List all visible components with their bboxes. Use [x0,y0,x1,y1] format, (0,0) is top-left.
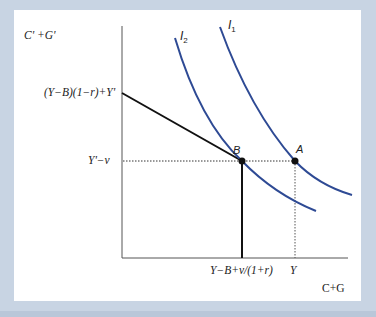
point-a-label: A [296,144,303,155]
y-kink-label: Y'−v [88,155,110,167]
x-endowment-label: Y [290,265,296,277]
point-a-marker [292,158,299,165]
curve-i1-label: I1 [228,19,236,34]
indifference-curve-i1 [220,27,352,195]
budget-line [122,93,242,258]
curve-i2-sub: 2 [183,36,187,45]
curve-i2-label: I2 [180,30,188,45]
y-intercept-label: (Y−B)(1−r)+Y' [44,87,115,99]
x-kink-label: Y−B+v/(1+r) [210,265,273,277]
diagram-canvas [0,0,376,317]
point-b-label: B [233,145,240,156]
bottom-border [0,311,376,317]
point-b-marker [239,158,246,165]
x-axis-label: C+G [322,283,344,295]
curve-i1-sub: 1 [231,25,235,34]
y-axis-label: C' +G' [24,30,56,42]
